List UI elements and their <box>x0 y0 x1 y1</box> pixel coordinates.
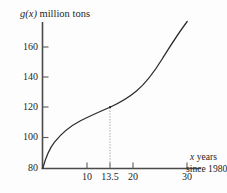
x-axis-title-line2: since 1980 <box>186 164 227 175</box>
x-axis-title-line1: x years <box>190 152 217 163</box>
x-axis-title-word: years <box>197 151 217 162</box>
y-axis-title: g(x) million tons <box>20 8 90 20</box>
y-axis-title-variable: g(x) <box>20 8 37 19</box>
y-tick-label-140: 140 <box>12 71 38 82</box>
inflection-point-marker <box>109 106 111 108</box>
chart-figure: g(x) million tons 160 140 120 100 80 10 … <box>0 0 227 193</box>
x-tick-label-20: 20 <box>118 171 148 182</box>
y-tick-label-160: 160 <box>12 41 38 52</box>
y-tick-label-80: 80 <box>12 162 38 173</box>
y-tick-marks <box>43 47 49 138</box>
gx-curve <box>43 22 187 169</box>
y-axis-title-units: million tons <box>40 8 90 19</box>
x-axis-title-variable: x <box>190 151 194 162</box>
y-tick-label-100: 100 <box>12 131 38 142</box>
x-tick-marks <box>87 163 187 169</box>
y-tick-label-120: 120 <box>12 101 38 112</box>
